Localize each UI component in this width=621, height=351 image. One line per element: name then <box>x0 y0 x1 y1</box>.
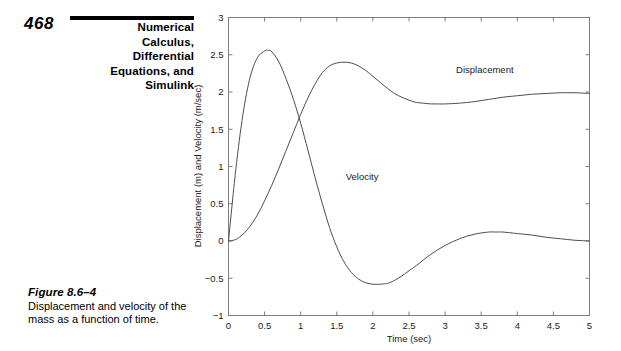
y-tick-label: −0.5 <box>205 273 224 284</box>
y-axis-title: Displacement (m) and Velocity (m/sec) <box>192 85 203 248</box>
y-tick-label: 1 <box>218 161 223 172</box>
velocity-label: Velocity <box>346 171 379 182</box>
x-tick-label: 4 <box>515 320 520 331</box>
x-tick-labels: 00.511.522.533.544.55 <box>226 320 592 331</box>
y-tick-label: 3 <box>218 12 223 23</box>
chart-svg: 00.511.522.533.544.55 −1−0.500.511.522.5… <box>190 0 621 351</box>
y-tick-labels: −1−0.500.511.522.53 <box>205 12 224 321</box>
running-head-line: Numerical <box>40 20 194 35</box>
y-tick-label: 2.5 <box>210 49 223 60</box>
figure-number: Figure 8.6–4 <box>28 286 96 298</box>
x-tick-label: 1.5 <box>330 320 343 331</box>
displacement-curve <box>229 62 590 241</box>
displacement-label: Displacement <box>456 64 514 75</box>
velocity-curve <box>229 50 590 284</box>
x-axis-title: Time (sec) <box>387 333 432 344</box>
x-tick-label: 1 <box>298 320 303 331</box>
y-tick-label: 0 <box>218 235 223 246</box>
x-tick-label: 0 <box>226 320 231 331</box>
y-tick-label: 1.5 <box>210 124 223 135</box>
running-head-line: Calculus, <box>40 35 194 50</box>
figure-caption-text: Displacement and velocity of the mass as… <box>28 300 186 326</box>
y-tick-label: −1 <box>213 310 224 321</box>
y-tick-label: 2 <box>218 86 223 97</box>
x-tick-label: 5 <box>587 320 592 331</box>
y-tick-label: 0.5 <box>210 198 223 209</box>
x-tick-label: 2 <box>370 320 375 331</box>
x-tick-label: 3.5 <box>475 320 488 331</box>
x-tick-label: 4.5 <box>547 320 560 331</box>
figure-plot: 00.511.522.533.544.55 −1−0.500.511.522.5… <box>190 0 621 351</box>
x-tick-label: 3 <box>442 320 447 331</box>
running-head-line: Simulink <box>40 78 194 93</box>
running-head: Numerical Calculus, Differential Equatio… <box>40 20 194 93</box>
figure-caption: Figure 8.6–4 Displacement and velocity o… <box>28 286 188 327</box>
running-head-line: Equations, and <box>40 64 194 79</box>
running-head-line: Differential <box>40 49 194 64</box>
x-tick-label: 0.5 <box>258 320 271 331</box>
x-tick-label: 2.5 <box>402 320 415 331</box>
